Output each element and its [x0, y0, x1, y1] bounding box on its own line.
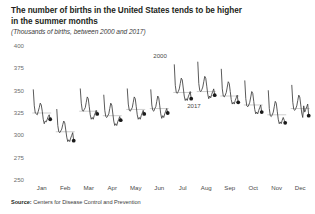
series-line — [80, 89, 97, 119]
sparkline-jun — [150, 90, 170, 119]
series-line — [33, 90, 50, 124]
chart-plot-area: 250275300325350375400 JanFebMarAprMayJun… — [0, 38, 315, 194]
sparkline-aug — [197, 62, 217, 99]
x-axis-tick-mar: Mar — [76, 184, 102, 191]
y-axis-tick: 300 — [6, 131, 24, 138]
series-line — [292, 85, 309, 117]
x-axis-tick-dec: Dec — [287, 184, 313, 191]
series-line — [57, 109, 74, 141]
x-axis-tick-jan: Jan — [29, 184, 55, 191]
sparkline-oct — [244, 81, 264, 114]
y-axis-tick: 350 — [6, 87, 24, 94]
end-point-marker — [166, 111, 170, 115]
end-point-marker — [189, 97, 193, 101]
source-label: Source: — [11, 199, 32, 205]
sparkline-dec — [291, 85, 311, 117]
series-line — [245, 81, 262, 114]
sparkline-nov — [267, 91, 287, 125]
y-axis-tick: 400 — [6, 42, 24, 49]
births-chart-figure: The number of births in the United State… — [0, 0, 315, 214]
series-line — [221, 69, 238, 104]
x-axis-tick-nov: Nov — [264, 184, 290, 191]
x-axis-tick-apr: Apr — [99, 184, 125, 191]
end-point-marker — [95, 112, 99, 116]
chart-subtitle: (Thousands of births, between 2000 and 2… — [11, 28, 146, 35]
x-axis-tick-may: May — [123, 184, 149, 191]
y-axis-tick: 375 — [6, 64, 24, 71]
series-line — [198, 62, 215, 99]
end-point-marker — [283, 121, 287, 125]
y-axis-tick: 250 — [6, 176, 24, 183]
page-title: The number of births in the United State… — [11, 5, 251, 27]
sparkline-apr — [103, 95, 123, 125]
series-line — [174, 65, 191, 101]
sparkline-jan — [32, 90, 52, 124]
source-text: Centers for Disease Control and Preventi… — [32, 199, 141, 205]
y-axis-tick: 275 — [6, 154, 24, 161]
end-point-marker — [307, 114, 311, 118]
end-point-marker — [72, 139, 76, 143]
x-axis-tick-jul: Jul — [170, 184, 196, 191]
sparkline-sep — [220, 69, 240, 104]
sparkline-jul — [173, 65, 193, 101]
x-axis-tick-feb: Feb — [52, 184, 78, 191]
end-point-marker — [236, 100, 240, 104]
x-axis-tick-sep: Sep — [217, 184, 243, 191]
end-point-marker — [260, 110, 264, 114]
series-line — [151, 90, 168, 119]
end-point-marker — [119, 118, 123, 122]
series-line — [268, 91, 285, 124]
sparkline-canvas — [0, 38, 315, 194]
y-axis-tick: 325 — [6, 109, 24, 116]
x-axis-tick-aug: Aug — [193, 184, 219, 191]
end-point-marker — [213, 93, 217, 97]
x-axis-tick-oct: Oct — [240, 184, 266, 191]
end-point-marker — [142, 112, 146, 116]
series-line — [127, 89, 144, 119]
sparkline-may — [126, 89, 146, 119]
end-point-marker — [48, 117, 52, 121]
sparkline-feb — [56, 109, 76, 142]
x-axis-tick-jun: Jun — [146, 184, 172, 191]
source-note: Source: Centers for Disease Control and … — [11, 199, 141, 205]
annotation-first-year: 2000 — [153, 52, 167, 59]
annotation-last-year: 2017 — [187, 102, 201, 109]
series-line — [104, 95, 121, 125]
sparkline-mar — [79, 89, 99, 119]
